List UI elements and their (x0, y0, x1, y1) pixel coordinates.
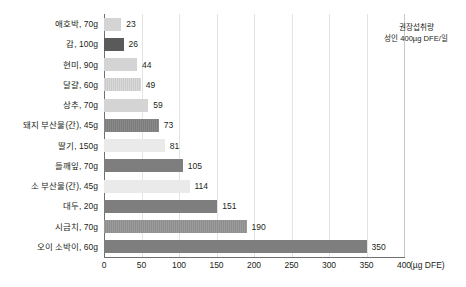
bar-value-label: 59 (153, 95, 162, 115)
x-axis-tick-labels: 050100150200250300350400 (104, 260, 404, 274)
x-tick-label: 50 (137, 260, 146, 270)
bar-row: 애호박, 70g23 (104, 14, 404, 34)
recommended-intake-detail: 성인 400µg DFE/일 (366, 33, 466, 44)
bar-value-label: 151 (222, 196, 236, 216)
bar (104, 240, 367, 253)
category-label: 현미, 90g (63, 55, 98, 75)
bar-value-label: 23 (126, 14, 135, 34)
x-tick-label: 200 (247, 260, 261, 270)
x-tick-label: 250 (284, 260, 298, 270)
bar-row: 감, 100g26 (104, 34, 404, 54)
category-label: 오이 소박이, 60g (37, 237, 98, 257)
category-label: 애호박, 70g (55, 14, 98, 34)
category-label: 들깨잎, 70g (55, 156, 98, 176)
x-tick-label: 100 (172, 260, 186, 270)
category-label: 달걀, 60g (63, 75, 98, 95)
category-label: 딸기, 150g (58, 136, 98, 156)
bar-chart: 애호박, 70g23감, 100g26현미, 90g44달걀, 60g49상추,… (0, 0, 466, 287)
bar-row: 소 부산물(간), 45g114 (104, 176, 404, 196)
bar-row: 대두, 20g151 (104, 196, 404, 216)
bar (104, 38, 124, 51)
x-tick-label: 150 (209, 260, 223, 270)
bar-row: 달걀, 60g49 (104, 75, 404, 95)
bar (104, 220, 247, 233)
bar (104, 119, 159, 132)
bar-value-label: 49 (146, 75, 155, 95)
bar-value-label: 26 (129, 34, 138, 54)
bar (104, 139, 165, 152)
x-tick-label: 300 (322, 260, 336, 270)
bar-value-label: 114 (195, 176, 209, 196)
bar (104, 200, 217, 213)
bar-row: 시금치, 70g190 (104, 217, 404, 237)
category-label: 소 부산물(간), 45g (31, 176, 98, 196)
category-label: 감, 100g (66, 34, 98, 54)
bar (104, 58, 137, 71)
x-axis-unit-label: (µg DFE) (410, 260, 445, 270)
bar-value-label: 81 (170, 136, 179, 156)
bar (104, 18, 121, 31)
bar-row: 현미, 90g44 (104, 55, 404, 75)
bar (104, 99, 148, 112)
recommended-intake-title: 권장섭취량 (366, 22, 466, 33)
bar-value-label: 350 (372, 237, 386, 257)
bar (104, 180, 190, 193)
recommended-intake-annotation: 권장섭취량 성인 400µg DFE/일 (366, 22, 466, 44)
bar (104, 78, 141, 91)
category-label: 대두, 20g (63, 196, 98, 216)
x-tick-label: 400 (397, 260, 411, 270)
bar-row: 돼지 부산물(간), 45g73 (104, 115, 404, 135)
bar-row: 들깨잎, 70g105 (104, 156, 404, 176)
bar-value-label: 105 (188, 156, 202, 176)
category-label: 상추, 70g (63, 95, 98, 115)
recommended-intake-reference-line (404, 14, 405, 257)
x-tick-label: 0 (102, 260, 107, 270)
category-label: 돼지 부산물(간), 45g (23, 115, 98, 135)
bar-row: 오이 소박이, 60g350 (104, 237, 404, 257)
bar-value-label: 44 (142, 55, 151, 75)
category-label: 시금치, 70g (55, 217, 98, 237)
bar-value-label: 190 (252, 217, 266, 237)
bar-row: 상추, 70g59 (104, 95, 404, 115)
plot-area: 애호박, 70g23감, 100g26현미, 90g44달걀, 60g49상추,… (104, 14, 404, 257)
x-tick-label: 350 (359, 260, 373, 270)
bar-row: 딸기, 150g81 (104, 136, 404, 156)
bar (104, 159, 183, 172)
bar-value-label: 73 (164, 115, 173, 135)
x-axis-line (104, 257, 405, 258)
